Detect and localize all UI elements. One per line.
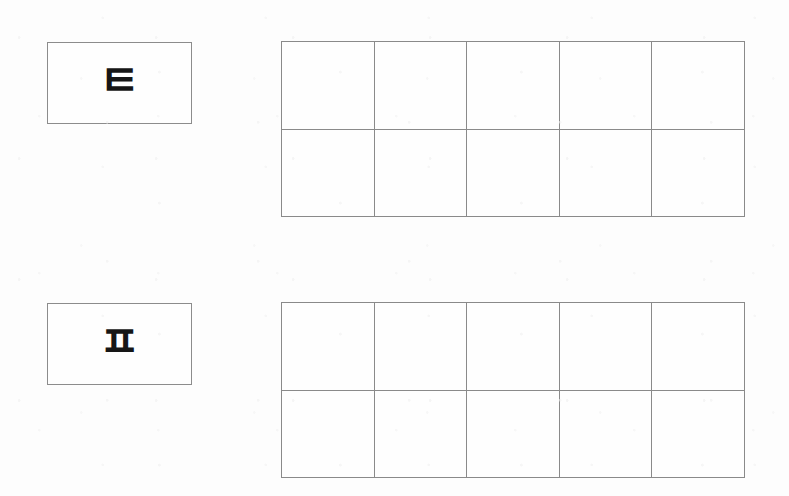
practice-cell[interactable] xyxy=(652,303,745,391)
practice-cell[interactable] xyxy=(282,303,375,391)
practice-cell[interactable] xyxy=(560,391,653,479)
practice-cell[interactable] xyxy=(652,42,745,130)
practice-cell[interactable] xyxy=(375,303,468,391)
practice-cell[interactable] xyxy=(282,130,375,218)
practice-grid xyxy=(281,41,745,217)
practice-cell[interactable] xyxy=(560,42,653,130)
practice-cell[interactable] xyxy=(375,391,468,479)
worksheet-page: ㅌ ㅍ xyxy=(0,0,789,496)
practice-cell[interactable] xyxy=(652,391,745,479)
practice-cell[interactable] xyxy=(560,303,653,391)
model-character-glyph: ㅌ xyxy=(99,60,139,104)
practice-cell[interactable] xyxy=(375,42,468,130)
model-character-glyph: ㅍ xyxy=(99,321,139,365)
practice-grid xyxy=(281,302,745,478)
practice-cell[interactable] xyxy=(560,130,653,218)
model-character-box: ㅌ xyxy=(47,42,192,124)
practice-cell[interactable] xyxy=(652,130,745,218)
practice-cell[interactable] xyxy=(375,130,468,218)
practice-cell[interactable] xyxy=(467,303,560,391)
practice-cell[interactable] xyxy=(282,391,375,479)
practice-cell[interactable] xyxy=(467,42,560,130)
practice-cell[interactable] xyxy=(467,391,560,479)
practice-cell[interactable] xyxy=(282,42,375,130)
practice-cell[interactable] xyxy=(467,130,560,218)
model-character-box: ㅍ xyxy=(47,303,192,385)
